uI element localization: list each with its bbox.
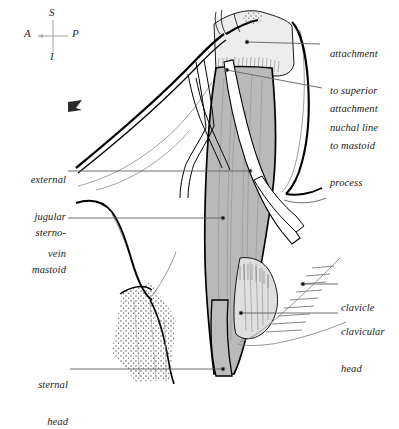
label-line: head <box>0 416 68 428</box>
label-line: attachment <box>330 103 378 115</box>
label-line: clavicular <box>341 326 385 338</box>
label-line: sterno- <box>0 227 66 239</box>
compass-label-posterior: P <box>72 27 79 39</box>
label-clavicular-head: clavicular head <box>341 302 385 387</box>
compass-label-inferior: I <box>50 50 54 62</box>
label-line: attachment <box>330 48 378 60</box>
label-sternomastoid: sterno- mastoid <box>0 203 66 288</box>
parotid-stipple <box>243 10 263 24</box>
label-line: to mastoid <box>330 140 378 152</box>
label-line: head <box>341 363 385 375</box>
label-line: external <box>0 174 66 186</box>
label-sternal-head: sternal head <box>0 355 68 429</box>
label-attachment-mastoid-process: attachment to mastoid process <box>330 79 378 201</box>
compass-label-anterior: A <box>24 27 31 39</box>
label-line: process <box>330 177 378 189</box>
label-line: mastoid <box>0 264 66 276</box>
compass-label-superior: S <box>49 6 55 18</box>
label-line: sternal <box>0 379 68 391</box>
